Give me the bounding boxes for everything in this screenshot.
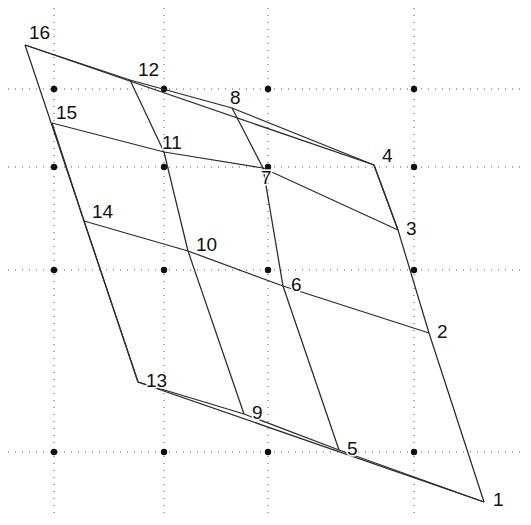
grid-node-2-0 <box>51 267 57 273</box>
vertex-label-6: 6 <box>291 274 302 295</box>
grid-node-3-0 <box>51 449 57 455</box>
vertex-label-13: 13 <box>146 370 167 391</box>
grid-node-0-2 <box>265 86 271 92</box>
vertex-label-12: 12 <box>138 59 159 80</box>
vertex-label-14: 14 <box>92 201 114 222</box>
polygon-figure-svg: 12345678910111213141516 <box>0 0 531 525</box>
grid-node-0-3 <box>411 86 417 92</box>
grid-node-1-0 <box>51 164 57 170</box>
vertex-label-16: 16 <box>29 22 50 43</box>
grid-node-1-3 <box>411 164 417 170</box>
vertex-labels-layer: 12345678910111213141516 <box>29 22 504 510</box>
vertex-label-5: 5 <box>347 438 358 459</box>
polyline-rail-12-9 <box>130 80 244 414</box>
polyline-band-14-2 <box>84 221 429 333</box>
vertex-label-2: 2 <box>437 321 448 342</box>
polyline-rail-15-13 <box>52 123 138 382</box>
grid-node-1-1 <box>161 164 167 170</box>
vertex-label-9: 9 <box>252 402 263 423</box>
vertex-label-3: 3 <box>406 218 417 239</box>
polyline-outer-top <box>25 45 398 230</box>
vertex-label-4: 4 <box>382 145 393 166</box>
vertex-label-11: 11 <box>162 132 182 153</box>
vertex-label-1: 1 <box>493 489 504 510</box>
grid-node-3-2 <box>265 449 271 455</box>
vertex-label-7: 7 <box>261 167 272 188</box>
grid-nodes-layer <box>51 86 417 455</box>
vertex-label-15: 15 <box>56 102 77 123</box>
grid-node-3-1 <box>161 449 167 455</box>
grid-node-2-1 <box>161 267 167 273</box>
grid-lines-layer <box>8 8 523 517</box>
polyline-outer-left <box>25 45 484 502</box>
figure-container: 12345678910111213141516 <box>0 0 531 525</box>
grid-node-0-0 <box>51 86 57 92</box>
polygon-edges-layer <box>25 45 484 502</box>
polyline-rail-8-5 <box>232 108 339 450</box>
grid-node-3-3 <box>411 449 417 455</box>
grid-node-2-3 <box>411 267 417 273</box>
grid-node-2-2 <box>265 267 271 273</box>
vertex-label-10: 10 <box>196 234 217 255</box>
vertex-label-8: 8 <box>230 87 241 108</box>
polyline-rail-4-1 <box>374 165 484 502</box>
